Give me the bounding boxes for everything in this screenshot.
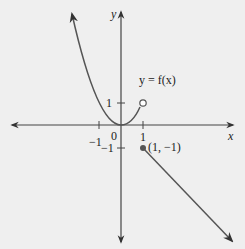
open-point-1-1 — [140, 100, 146, 106]
closed-point-1-neg1 — [140, 145, 146, 151]
function-graph: y x y = f(x) 0 −1 1 1 −1 (1, −1) — [0, 0, 245, 249]
linear-ray — [143, 148, 232, 241]
function-label-text: y = f(x) — [139, 73, 176, 87]
x-tick-1-label: 1 — [140, 130, 146, 144]
y-axis-label: y — [110, 7, 117, 21]
function-label: y = f(x) — [139, 73, 176, 87]
y-tick-1-label: 1 — [106, 96, 112, 110]
point-label: (1, −1) — [148, 140, 181, 154]
x-axis-label: x — [227, 129, 234, 143]
y-tick-neg1-label: −1 — [101, 141, 114, 155]
x-tick-neg1-label: −1 — [89, 135, 102, 149]
